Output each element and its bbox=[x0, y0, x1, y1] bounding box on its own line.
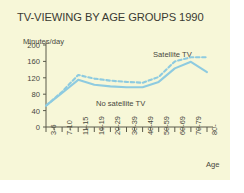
data-series-group bbox=[46, 57, 207, 105]
chart-figure: TV-VIEWING BY AGE GROUPS 1990 Minutes/da… bbox=[0, 0, 230, 180]
right-margin-strip bbox=[230, 0, 244, 193]
bottom-margin-strip bbox=[0, 180, 244, 193]
plot-area bbox=[0, 0, 230, 180]
